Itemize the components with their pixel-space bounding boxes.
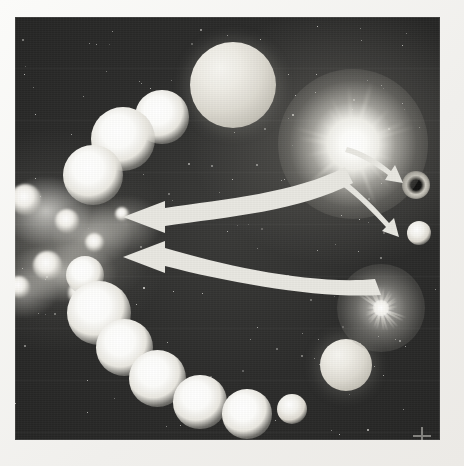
corner-crosshair [413,427,431,440]
recycle-arrow-upper [123,167,353,233]
flow-arrows [15,17,440,440]
crosshair-vertical [421,427,423,440]
space-panel [15,17,440,440]
figure-page [0,0,464,466]
recycle-arrow-lower [123,241,381,296]
remnant-arrow-white-dwarf [341,179,399,237]
remnant-arrow-black-hole [345,147,403,183]
